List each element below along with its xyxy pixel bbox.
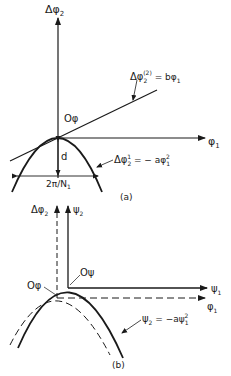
a-y-axis-label: Δφ2: [45, 3, 64, 18]
a-caption: (a): [120, 192, 133, 202]
b-origin-phi-label: Oφ: [27, 280, 42, 291]
b-dashed-y-label: Δφ2: [31, 204, 48, 217]
b-origin-phi-leader: [44, 287, 56, 295]
a-x-axis-label: φ1: [208, 135, 220, 150]
a-parabola-leader: [97, 160, 113, 167]
a-parabola-equation: Δφ21 = − aφ12: [114, 153, 170, 167]
a-line-leader: [133, 80, 137, 100]
a-tangent-line: [10, 90, 157, 161]
a-origin-label: Oφ: [64, 113, 79, 124]
b-parabola-leader: [122, 320, 141, 333]
a-width-label: 2π/N1: [46, 179, 71, 190]
b-dashed-x-label: φ1: [207, 301, 218, 314]
b-parabola-equation: ψ2 = −aψ12: [142, 312, 189, 326]
b-origin-psi-label: Oψ: [80, 267, 95, 278]
b-solid-parabola: [18, 292, 123, 358]
a-depth-label: d: [61, 151, 67, 162]
diagram-canvas: Δφ2 φ1 Δφ2(2) = bφ1 Oφ d 2π/N1 Δφ21 = − …: [0, 0, 231, 376]
b-caption: (b): [112, 360, 125, 370]
panel-a: Δφ2 φ1 Δφ2(2) = bφ1 Oφ d 2π/N1 Δφ21 = − …: [10, 3, 220, 202]
a-line-equation: Δφ2(2) = bφ1: [130, 69, 181, 84]
b-origin-psi-leader: [70, 275, 80, 285]
panel-b: Δφ2 ψ2 ψ1 φ1 Oψ Oφ ψ2 = −aψ12 (: [10, 204, 222, 370]
b-solid-x-label: ψ1: [211, 283, 222, 296]
b-solid-y-label: ψ2: [73, 204, 84, 217]
